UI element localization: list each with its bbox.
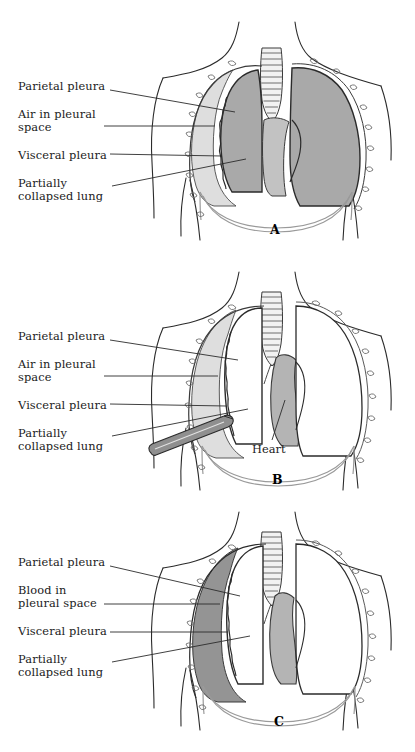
panel-a-pneumothorax: Parietal pleura Air in pleural space Vis… [0,0,415,250]
label-parietal-pleura-a: Parietal pleura [18,80,105,93]
label-visceral-pleura-b: Visceral pleura [18,399,107,412]
panel-a-labels: Parietal pleura Air in pleural space Vis… [0,0,415,250]
panel-b-needle-decompression: Parietal pleura Air in pleural space Vis… [0,250,415,500]
panel-letter-a: A [270,222,280,237]
label-parietal-pleura-b: Parietal pleura [18,330,105,343]
panel-letter-c: C [274,714,284,729]
label-partially-collapsed-lung-a: Partially collapsed lung [18,177,103,203]
label-air-in-pleural-space-a: Air in pleural space [18,108,96,134]
label-parietal-pleura-c: Parietal pleura [18,556,105,569]
label-blood-in-pleural-space-c: Blood in pleural space [18,584,97,610]
label-air-in-pleural-space-b: Air in pleural space [18,358,96,384]
panel-c-labels: Parietal pleura Blood in pleural space V… [0,500,415,752]
label-visceral-pleura-c: Visceral pleura [18,625,107,638]
panel-c-hemothorax: Parietal pleura Blood in pleural space V… [0,500,415,752]
label-visceral-pleura-a: Visceral pleura [18,149,107,162]
panel-letter-b: B [272,472,283,487]
panel-b-labels: Parietal pleura Air in pleural space Vis… [0,250,415,500]
label-partially-collapsed-lung-b: Partially collapsed lung [18,427,103,453]
label-partially-collapsed-lung-c: Partially collapsed lung [18,653,103,679]
label-heart-b: Heart [252,442,286,456]
